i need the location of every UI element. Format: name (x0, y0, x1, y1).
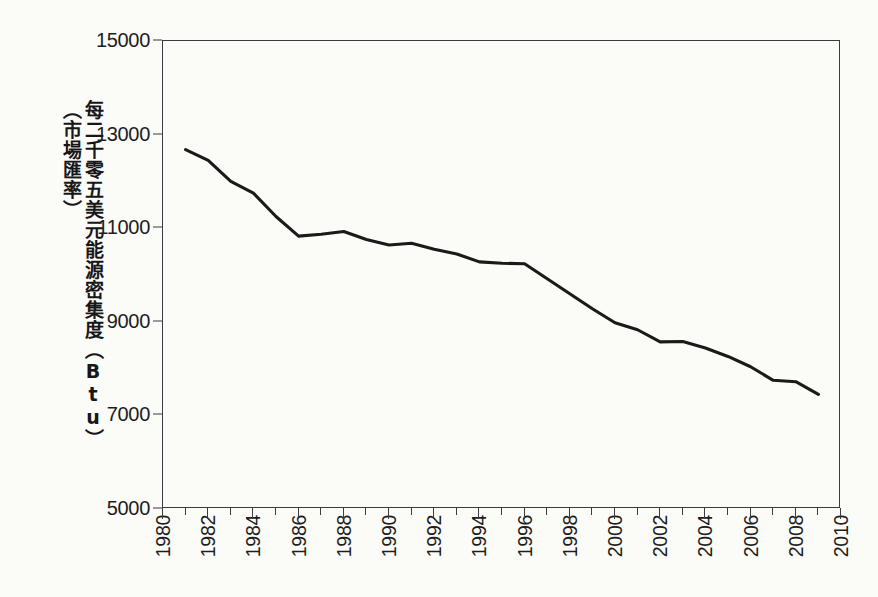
x-axis-tick-label: 2000 (604, 515, 627, 557)
x-axis-tick-label: 1990 (378, 515, 401, 557)
y-axis-title-line-1: 每二千零五美元能源密集度（Btu） (82, 100, 102, 449)
data-line-svg (161, 39, 843, 511)
x-axis-tick-label: 1996 (514, 515, 537, 557)
y-axis-tick-label: 13000 (70, 122, 150, 145)
data-line-series-1 (186, 150, 819, 395)
x-axis-tick-label: 1998 (559, 515, 582, 557)
x-axis-tick-label: 2004 (694, 515, 717, 557)
x-axis-tick-label: 1984 (242, 515, 265, 557)
chart-figure: 每二千零五美元能源密集度（Btu） （市場匯率） 500070009000110… (0, 0, 878, 597)
x-axis-tick-label: 2006 (740, 515, 763, 557)
y-axis-tick-label: 9000 (70, 309, 150, 332)
x-axis-tick-label: 2010 (830, 515, 853, 557)
x-axis-tick-label: 2008 (785, 515, 808, 557)
x-axis-tick-label: 1980 (152, 515, 175, 557)
y-axis-tick-label: 15000 (70, 29, 150, 52)
y-axis-title-line-2: （市場匯率） (60, 100, 80, 220)
x-axis-tick-label: 2002 (649, 515, 672, 557)
x-axis-tick-label: 1986 (288, 515, 311, 557)
x-axis-tick-label: 1982 (197, 515, 220, 557)
x-axis-tick-label: 1994 (468, 515, 491, 557)
x-axis-tick-label: 1988 (333, 515, 356, 557)
x-axis-tick-label: 1992 (423, 515, 446, 557)
y-axis-tick-label: 5000 (70, 497, 150, 520)
y-axis-tick-label: 11000 (70, 216, 150, 239)
y-axis-tick-label: 7000 (70, 403, 150, 426)
plot-area (162, 40, 840, 508)
